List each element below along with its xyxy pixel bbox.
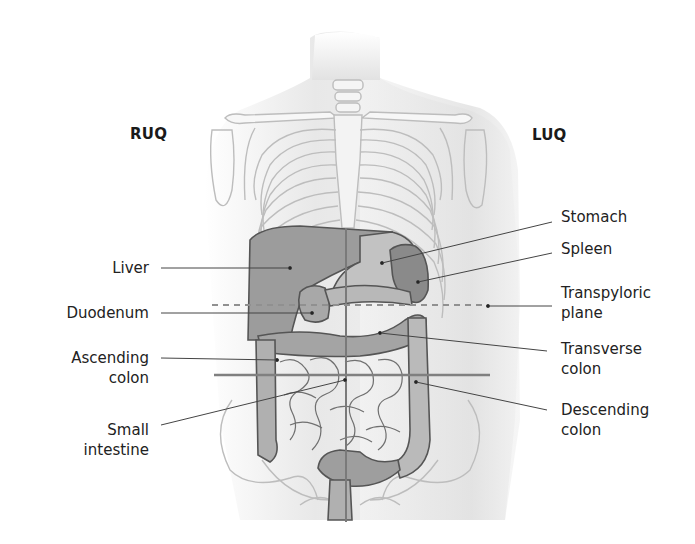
label-text: Spleen xyxy=(561,239,612,259)
abdominal-quadrants-diagram: RUQ LUQ Liver Duodenum Ascending colon S… xyxy=(0,0,695,544)
label-text: Transverse xyxy=(561,339,642,359)
quadrant-label-luq: LUQ xyxy=(532,126,567,144)
label-duodenum: Duodenum xyxy=(66,303,149,323)
label-text: Ascending xyxy=(71,348,149,368)
label-transpyloric-plane: Transpyloric plane xyxy=(561,283,651,323)
label-text: Liver xyxy=(112,258,149,278)
label-small-intestine: Small intestine xyxy=(84,420,149,460)
label-transverse-colon: Transverse colon xyxy=(561,339,642,379)
torso-illustration xyxy=(0,0,695,544)
label-text: colon xyxy=(71,368,149,388)
label-text: Small xyxy=(84,420,149,440)
label-stomach: Stomach xyxy=(561,207,627,227)
label-text: Duodenum xyxy=(66,303,149,323)
label-text: Descending xyxy=(561,400,649,420)
label-ascending-colon: Ascending colon xyxy=(71,348,149,388)
label-text: Stomach xyxy=(561,207,627,227)
label-text: Transpyloric xyxy=(561,283,651,303)
label-text: colon xyxy=(561,420,649,440)
label-liver: Liver xyxy=(112,258,149,278)
label-text: colon xyxy=(561,359,642,379)
label-text: intestine xyxy=(84,440,149,460)
label-text: plane xyxy=(561,303,651,323)
label-descending-colon: Descending colon xyxy=(561,400,649,440)
label-spleen: Spleen xyxy=(561,239,612,259)
quadrant-label-ruq: RUQ xyxy=(130,125,167,143)
